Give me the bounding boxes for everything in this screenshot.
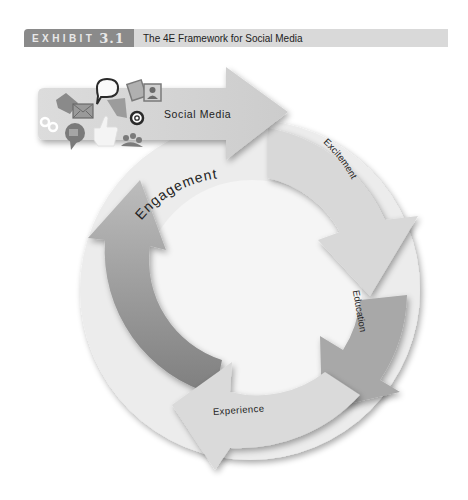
video-chat-icon [65, 123, 85, 150]
at-sign-icon [131, 112, 143, 124]
profile-icon [144, 84, 161, 101]
framework-diagram: Social Media Engagement Excitement Educa… [0, 0, 468, 500]
envelope-icon [73, 104, 93, 118]
social-media-label: Social Media [164, 108, 231, 120]
